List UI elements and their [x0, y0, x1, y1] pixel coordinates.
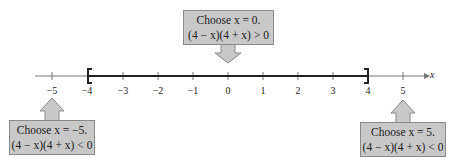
arrow-up-icon — [391, 100, 415, 123]
callout-line2: (4 − x)(4 + x) > 0 — [184, 28, 273, 43]
callout-line1: Choose x = 5. — [361, 125, 445, 140]
callout-test-zero: Choose x = 0. (4 − x)(4 + x) > 0 — [183, 10, 274, 45]
axis-label: x — [430, 69, 434, 80]
tick-label: 2 — [288, 85, 308, 96]
callout-test-five: Choose x = 5. (4 − x)(4 + x) < 0 — [360, 122, 446, 157]
callout-line1: Choose x = 0. — [184, 13, 273, 28]
callout-line2: (4 − x)(4 + x) < 0 — [10, 138, 94, 153]
tick-label: 3 — [323, 85, 343, 96]
tick-label: −2 — [148, 85, 168, 96]
tick-label: −1 — [183, 85, 203, 96]
tick-label: −4 — [77, 85, 97, 96]
tick-label: 5 — [393, 85, 413, 96]
tick-label: 4 — [358, 85, 378, 96]
callout-line1: Choose x = −5. — [10, 123, 94, 138]
tick-label: 1 — [253, 85, 273, 96]
callout-line2: (4 − x)(4 + x) < 0 — [361, 140, 445, 155]
tick-label: −3 — [113, 85, 133, 96]
arrow-down-icon — [215, 44, 241, 63]
tick-label: −5 — [42, 85, 62, 96]
callout-test-negative-five: Choose x = −5. (4 − x)(4 + x) < 0 — [9, 120, 95, 155]
arrow-up-icon — [40, 98, 64, 121]
tick-label: 0 — [218, 85, 238, 96]
